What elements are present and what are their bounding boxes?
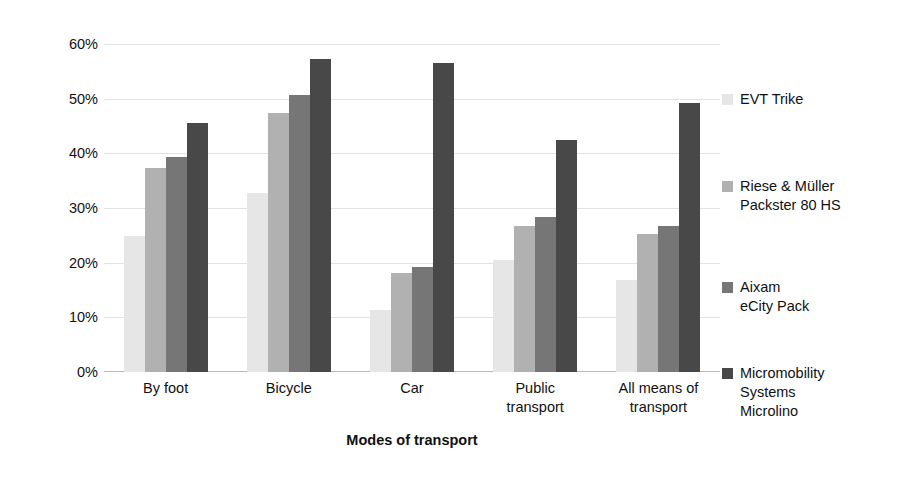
legend-swatch-icon [722,282,733,293]
legend-swatch-icon [722,181,733,192]
legend-item[interactable]: Riese & Müller Packster 80 HS [722,177,841,215]
x-axis-category-labels: By footBicycleCarPublic transportAll mea… [104,379,720,435]
y-axis-tick-label: 60% [52,37,98,52]
legend-label: Micromobility Systems Microlino [740,364,825,421]
y-axis-tick-labels: 0%10%20%30%40%50%60% [52,44,98,372]
bar-group [227,44,350,372]
y-axis-tick-label: 20% [52,255,98,270]
bar-group [474,44,597,372]
bar-group [350,44,473,372]
bar[interactable] [637,234,658,372]
bar[interactable] [289,95,310,372]
legend: EVT TrikeRiese & Müller Packster 80 HSAi… [722,44,906,444]
y-axis-tick-label: 30% [52,201,98,216]
bar[interactable] [679,103,700,373]
bar[interactable] [268,113,289,372]
bar-groups [104,44,720,372]
legend-label: Riese & Müller Packster 80 HS [740,177,841,215]
y-axis-tick-label: 10% [52,310,98,325]
bar[interactable] [187,123,208,372]
x-axis-category-label: Car [350,379,473,435]
legend-swatch-icon [722,94,733,105]
y-axis-tick-label: 0% [52,365,98,380]
bar[interactable] [166,157,187,372]
bar[interactable] [247,193,268,372]
legend-swatch-icon [722,368,733,379]
legend-item[interactable]: Micromobility Systems Microlino [722,364,825,421]
bar[interactable] [433,63,454,372]
x-axis-category-label: Public transport [474,379,597,435]
bar-group [104,44,227,372]
bar-chart: Maximum substitutable trips [%] 0%10%20%… [0,0,906,489]
bar[interactable] [391,273,412,372]
y-axis-tick-label: 40% [52,146,98,161]
bar[interactable] [658,226,679,373]
x-axis-title: Modes of transport [104,432,720,448]
legend-item[interactable]: EVT Trike [722,90,803,109]
bar[interactable] [310,59,331,372]
bar[interactable] [124,236,145,372]
bar[interactable] [145,168,166,372]
bar[interactable] [370,310,391,372]
bar[interactable] [556,140,577,372]
bar[interactable] [535,217,556,372]
x-axis-category-label: Bicycle [227,379,350,435]
bar[interactable] [616,280,637,372]
bar[interactable] [514,226,535,372]
bar[interactable] [412,267,433,373]
plot-area [104,44,720,372]
y-axis-tick-label: 50% [52,91,98,106]
legend-label: EVT Trike [740,90,803,109]
legend-label: Aixam eCity Pack [740,278,809,316]
x-axis-category-label: All means of transport [597,379,720,435]
bar-group [597,44,720,372]
x-axis-category-label: By foot [104,379,227,435]
legend-item[interactable]: Aixam eCity Pack [722,278,809,316]
bar[interactable] [493,260,514,372]
